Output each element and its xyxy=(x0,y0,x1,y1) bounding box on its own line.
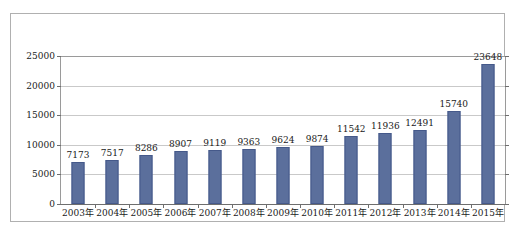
y-axis-tick-mark-right xyxy=(505,145,509,146)
bar[interactable] xyxy=(447,111,460,204)
plot-area: 0500010000150002000025000 71732003年75172… xyxy=(60,56,506,205)
bar[interactable] xyxy=(174,151,187,204)
x-axis-tick-mark xyxy=(300,204,301,208)
x-axis-category-label: 2011年 xyxy=(335,209,367,218)
bar[interactable] xyxy=(481,64,494,204)
y-axis-tick-mark-right xyxy=(505,86,509,87)
x-axis-category-label: 2012年 xyxy=(369,209,401,218)
bar[interactable] xyxy=(106,160,119,205)
x-axis-tick-mark xyxy=(163,204,164,208)
bar-group: 71732003年 xyxy=(61,56,95,204)
bar-group: 75172004年 xyxy=(95,56,129,204)
y-axis-tick-label: 5000 xyxy=(32,170,55,179)
y-axis-tick-label: 25000 xyxy=(26,52,55,61)
x-axis-category-label: 2014年 xyxy=(438,209,470,218)
x-axis-category-label: 2006年 xyxy=(165,209,197,218)
x-axis-tick-mark xyxy=(403,204,404,208)
x-axis-category-label: 2015年 xyxy=(472,209,504,218)
bar[interactable] xyxy=(72,162,85,204)
y-axis-tick-mark-right xyxy=(505,56,509,57)
bar[interactable] xyxy=(276,147,289,204)
bar-value-label: 12491 xyxy=(405,119,434,128)
chart-frame: 0500010000150002000025000 71732003年75172… xyxy=(10,13,505,222)
bar-group: 96242009年 xyxy=(266,56,300,204)
y-axis-tick-label: 0 xyxy=(49,200,55,209)
bar-value-label: 23648 xyxy=(474,53,503,62)
bar-value-label: 7173 xyxy=(67,151,90,160)
bar-value-label: 9874 xyxy=(306,135,329,144)
bar-group: 124912013年 xyxy=(403,56,437,204)
y-axis-tick-mark xyxy=(57,204,61,205)
bar[interactable] xyxy=(379,133,392,204)
bar-value-label: 11936 xyxy=(371,122,400,131)
bar-value-label: 15740 xyxy=(439,100,468,109)
bar-group: 91192007年 xyxy=(198,56,232,204)
bar[interactable] xyxy=(140,155,153,204)
x-axis-tick-mark xyxy=(437,204,438,208)
x-axis-category-label: 2004年 xyxy=(96,209,128,218)
bar-group: 157402014年 xyxy=(437,56,471,204)
y-axis-tick-mark-right xyxy=(505,115,509,116)
x-axis-category-label: 2008年 xyxy=(233,209,265,218)
bar-group: 89072006年 xyxy=(163,56,197,204)
bar-value-label: 8907 xyxy=(169,140,192,149)
bar-value-label: 9119 xyxy=(203,139,226,148)
bar-value-label: 7517 xyxy=(101,149,124,158)
x-axis-category-label: 2003年 xyxy=(62,209,94,218)
bars-group: 71732003年75172004年82862005年89072006年9119… xyxy=(61,56,505,204)
x-axis-tick-mark xyxy=(95,204,96,208)
x-axis-category-label: 2009年 xyxy=(267,209,299,218)
x-axis-tick-mark xyxy=(471,204,472,208)
bar-group: 236482015年 xyxy=(471,56,505,204)
y-axis-tick-label: 10000 xyxy=(26,140,55,149)
x-axis-category-label: 2005年 xyxy=(130,209,162,218)
y-axis-tick-label: 15000 xyxy=(26,111,55,120)
bar-value-label: 9363 xyxy=(237,138,260,147)
bar-group: 98742010年 xyxy=(300,56,334,204)
y-axis-tick-mark-right xyxy=(505,204,509,205)
y-axis-tick-label: 20000 xyxy=(26,81,55,90)
bar-group: 119362012年 xyxy=(368,56,402,204)
x-axis-category-label: 2010年 xyxy=(301,209,333,218)
bar[interactable] xyxy=(311,146,324,204)
bar-group: 93632008年 xyxy=(232,56,266,204)
x-axis-tick-mark xyxy=(266,204,267,208)
bar[interactable] xyxy=(413,130,426,204)
x-axis-tick-mark xyxy=(198,204,199,208)
bar-value-label: 9624 xyxy=(272,136,295,145)
x-axis-category-label: 2013年 xyxy=(404,209,436,218)
x-axis-tick-mark xyxy=(334,204,335,208)
x-axis-category-label: 2007年 xyxy=(199,209,231,218)
y-axis-tick-mark-right xyxy=(505,174,509,175)
x-axis-tick-mark xyxy=(232,204,233,208)
x-axis-tick-mark xyxy=(129,204,130,208)
bar-group: 115422011年 xyxy=(334,56,368,204)
bar-group: 82862005年 xyxy=(129,56,163,204)
bar[interactable] xyxy=(345,136,358,204)
bar-value-label: 11542 xyxy=(337,125,366,134)
bar[interactable] xyxy=(208,150,221,204)
bar-value-label: 8286 xyxy=(135,144,158,153)
bar[interactable] xyxy=(242,149,255,204)
x-axis-tick-mark xyxy=(368,204,369,208)
